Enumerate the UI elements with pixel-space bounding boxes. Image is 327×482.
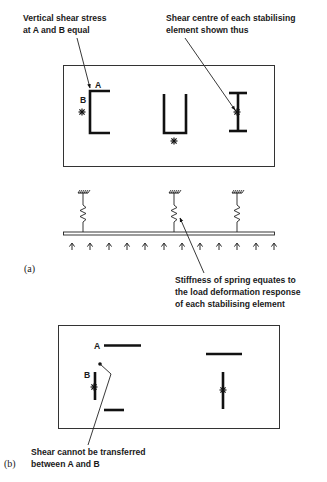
load-arrow-icon bbox=[197, 243, 202, 250]
part-a: Vertical shear stress at A and B equal S… bbox=[23, 13, 301, 309]
shear-centre-star-icon bbox=[234, 109, 241, 116]
diaphragm-beam bbox=[64, 232, 275, 235]
i-section bbox=[229, 93, 247, 131]
part-b: A B Shear cannot be transferred between … bbox=[4, 326, 280, 471]
load-arrow-icon bbox=[142, 243, 147, 250]
load-arrow-icon bbox=[69, 243, 74, 250]
spring-annotation-line1: Stiffness of spring equates to bbox=[175, 275, 296, 285]
load-arrow-icon bbox=[87, 243, 92, 250]
point-label-a: A bbox=[95, 80, 101, 90]
shear-gap-annotation-line1: Shear cannot be transferred bbox=[31, 447, 146, 457]
load-arrow-icon bbox=[106, 243, 111, 250]
spring-annotation-line3: of each stabilising element bbox=[175, 299, 285, 309]
shear-gap-leader-line bbox=[88, 364, 111, 445]
load-arrow-icon bbox=[161, 243, 166, 250]
fixed-support-icon bbox=[169, 190, 181, 193]
shear-stress-annotation-line2: at A and B equal bbox=[23, 25, 90, 35]
point-label-b: B bbox=[80, 95, 86, 105]
shear-stress-leader-arrow bbox=[77, 38, 90, 88]
shear-gap-annotation-line2: between A and B bbox=[31, 459, 100, 469]
shear-centre-annotation-line2: element shown thus bbox=[166, 25, 249, 35]
part-label-b: (b) bbox=[4, 458, 16, 470]
part-label-a: (a) bbox=[24, 263, 35, 275]
shear-centre-star-icon bbox=[220, 387, 227, 394]
shear-centre-star-icon bbox=[171, 138, 178, 145]
spring-3 bbox=[232, 190, 244, 232]
channel-section: A B bbox=[79, 80, 111, 133]
point-label-a: A bbox=[94, 341, 100, 351]
fixed-support-icon bbox=[232, 190, 244, 193]
load-arrow-icon bbox=[271, 243, 276, 250]
shear-centre-star-icon bbox=[91, 384, 98, 391]
load-arrow-icon bbox=[253, 243, 258, 250]
fixed-support-icon bbox=[78, 190, 90, 193]
spring-2 bbox=[169, 190, 181, 232]
point-label-b: B bbox=[84, 370, 90, 380]
shear-stress-annotation-line1: Vertical shear stress bbox=[23, 13, 107, 23]
plan-outline-b bbox=[59, 326, 280, 429]
spring-1 bbox=[78, 190, 90, 232]
load-arrow-icon bbox=[179, 243, 184, 250]
shear-centre-star-icon bbox=[79, 109, 86, 116]
open-channel-section: A B bbox=[84, 341, 141, 410]
shear-centre-leader-arrow bbox=[185, 38, 235, 110]
spring-annotation-line2: the load deformation response bbox=[175, 287, 301, 297]
shear-centre-diagram: Vertical shear stress at A and B equal S… bbox=[0, 0, 327, 482]
load-arrow-icon bbox=[216, 243, 221, 250]
u-section bbox=[164, 94, 186, 145]
spring-system bbox=[64, 190, 275, 235]
load-arrow-icon bbox=[124, 243, 129, 250]
load-arrow-icon bbox=[234, 243, 239, 250]
distributed-load-arrows bbox=[69, 243, 276, 250]
open-tee-section bbox=[206, 354, 242, 409]
shear-centre-annotation-line1: Shear centre of each stabilising bbox=[166, 13, 295, 23]
